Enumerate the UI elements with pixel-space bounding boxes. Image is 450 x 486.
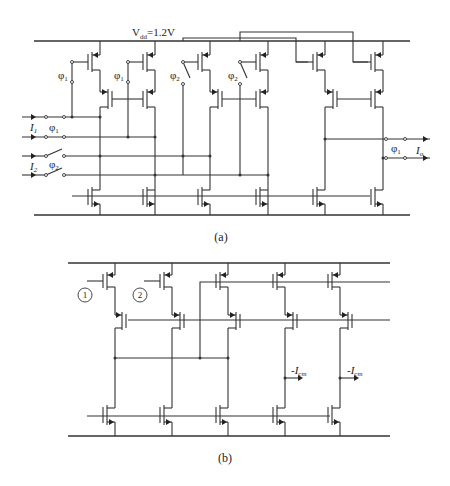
pmos-top-5 bbox=[296, 41, 325, 92]
output-io-label: Io bbox=[415, 144, 424, 158]
node-1-label: 1 bbox=[83, 290, 88, 300]
phi1-label-1: φ1 bbox=[58, 69, 68, 83]
figure-b: 1 2 -Icm -Icm (b) bbox=[68, 263, 390, 465]
pmos-top-2 bbox=[128, 41, 155, 92]
pmos-row-b bbox=[87, 263, 390, 358]
input-i1-label: I1 bbox=[29, 121, 37, 135]
pmos-cascode-3 bbox=[210, 89, 222, 156]
phi2-label-1: φ2 bbox=[170, 69, 180, 83]
phi2-label-2: φ2 bbox=[228, 69, 238, 83]
circuit-diagram: Vdd=1.2V φ1 φ1 φ2 φ2 I1 φ1 I2 φ2 φ1 Io (… bbox=[0, 0, 450, 486]
figure-a: Vdd=1.2V φ1 φ1 φ2 φ2 I1 φ1 I2 φ2 φ1 Io (… bbox=[22, 26, 430, 244]
switch-phi2-a bbox=[183, 62, 190, 78]
phi2-label-input: φ2 bbox=[49, 158, 59, 172]
switch-phi2-i2a bbox=[46, 149, 62, 156]
nmos-row-b bbox=[103, 405, 340, 436]
input-i2-label: I2 bbox=[29, 160, 38, 174]
phi1-label-input: φ1 bbox=[49, 121, 59, 135]
pmos-top-3 bbox=[183, 41, 210, 92]
icm-label-1: -Icm bbox=[291, 364, 307, 378]
icm-label-2: -Icm bbox=[347, 364, 363, 378]
vdd-label: Vdd=1.2V bbox=[132, 26, 175, 41]
phi1-label-2: φ1 bbox=[114, 69, 124, 83]
pmos-cascode-row-b bbox=[115, 312, 390, 408]
feedback-wire-2 bbox=[240, 32, 368, 62]
pmos-cascode-1 bbox=[100, 89, 112, 117]
nmos-row-a bbox=[88, 187, 383, 215]
pmos-top-6 bbox=[353, 41, 383, 92]
phi1-label-output: φ1 bbox=[391, 142, 401, 156]
node-2-label: 2 bbox=[138, 290, 143, 300]
switch-phi2-b bbox=[240, 62, 247, 78]
caption-a: (a) bbox=[214, 230, 227, 244]
caption-b: (b) bbox=[218, 451, 232, 465]
pmos-top-4 bbox=[240, 41, 268, 92]
pmos-top-1 bbox=[72, 41, 100, 92]
